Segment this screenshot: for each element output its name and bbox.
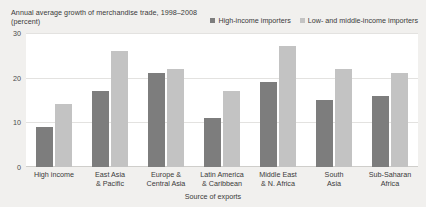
x-axis-category-label: Sub-SaharanAfrica (362, 170, 418, 189)
y-axis-tick-label: 10 (13, 118, 21, 127)
chart-title: Annual average growth of merchandise tra… (11, 8, 211, 26)
bar-group (148, 33, 184, 167)
legend-swatch-high-income-importers (210, 18, 215, 23)
legend-swatch-low-and-middle-income-importers (300, 18, 305, 23)
bar[interactable] (316, 100, 333, 167)
bar[interactable] (148, 73, 165, 167)
x-axis-labels: High incomeEast Asia& PacificEurope &Cen… (26, 170, 418, 189)
bar-group (260, 33, 296, 167)
x-axis-category-label: Middle East& N. Africa (250, 170, 306, 189)
chart-legend: High-income importers Low- and middle-in… (210, 16, 418, 25)
legend-label-high-income-importers: High-income importers (218, 16, 290, 25)
legend-item-low-and-middle-income-importers[interactable]: Low- and middle-income importers (300, 16, 418, 25)
bar-groups (26, 33, 418, 167)
x-axis-category-label: Latin America& Caribbean (194, 170, 250, 189)
bar[interactable] (204, 118, 221, 167)
bar[interactable] (372, 96, 389, 167)
bar-group (92, 33, 128, 167)
bar-group (316, 33, 352, 167)
bar[interactable] (260, 82, 277, 167)
bar-group (204, 33, 240, 167)
bar[interactable] (36, 127, 53, 167)
legend-label-low-and-middle-income-importers: Low- and middle-income importers (308, 16, 418, 25)
bar[interactable] (279, 46, 296, 167)
y-axis-tick-label: 20 (13, 73, 21, 82)
y-axis-tick-label: 0 (17, 163, 21, 172)
bar-chart: Annual average growth of merchandise tra… (0, 0, 426, 207)
y-axis-tick-label: 30 (13, 29, 21, 38)
plot-area: 0102030 (26, 33, 418, 167)
bar[interactable] (335, 69, 352, 167)
x-axis-category-label: High income (26, 170, 82, 189)
bar[interactable] (391, 73, 408, 167)
bar[interactable] (92, 91, 109, 167)
bar-group (372, 33, 408, 167)
legend-item-high-income-importers[interactable]: High-income importers (210, 16, 290, 25)
bar[interactable] (55, 104, 72, 167)
x-axis-category-label: SouthAsia (306, 170, 362, 189)
bar[interactable] (167, 69, 184, 167)
x-axis-category-label: East Asia& Pacific (82, 170, 138, 189)
x-axis-category-label: Europe &Central Asia (138, 170, 194, 189)
x-axis-title: Source of exports (0, 192, 426, 201)
bar-group (36, 33, 72, 167)
bar[interactable] (223, 91, 240, 167)
bar[interactable] (111, 51, 128, 167)
